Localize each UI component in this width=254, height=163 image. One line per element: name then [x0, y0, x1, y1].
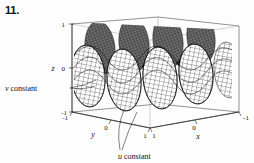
- u-constant-text: constant: [122, 152, 151, 161]
- y-tick-0: 0: [104, 124, 108, 132]
- z-tick-0: 0: [62, 65, 66, 73]
- parametric-surface: [68, 11, 244, 113]
- v-constant-label: v constant: [5, 84, 38, 93]
- x-axis-label: x: [195, 132, 200, 141]
- figure-canvas: 11.: [0, 0, 254, 163]
- x-axis: 1 0 -1 x: [150, 112, 249, 141]
- x-tick-1: 1: [152, 132, 156, 140]
- x-tick-neg1: -1: [243, 114, 249, 122]
- v-constant-text: constant: [9, 84, 38, 93]
- x-tick-0: 0: [192, 124, 196, 132]
- u-constant-label: u constant: [118, 152, 151, 161]
- z-tick-1: 1: [62, 21, 66, 29]
- y-axis-label: y: [90, 130, 95, 139]
- y-axis: -1 0 1 y: [62, 112, 150, 140]
- surface-lobes-front: [68, 41, 244, 112]
- z-axis: 1 0 -1 z: [50, 21, 74, 117]
- y-tick-neg1: -1: [62, 114, 68, 122]
- surface-plot: 1 0 -1 z -1 0 1 y 1 0 -1 x: [0, 0, 254, 163]
- y-tick-1: 1: [143, 132, 147, 140]
- z-axis-label: z: [50, 64, 55, 73]
